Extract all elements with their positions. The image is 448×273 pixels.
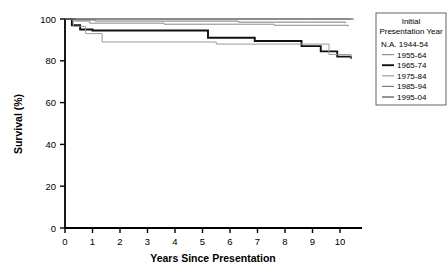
x-tick-label: 5: [200, 236, 205, 247]
legend-entry-label: 1995-04: [397, 93, 427, 102]
legend-entry-label: 1975-84: [397, 72, 427, 81]
x-tick-label: 3: [145, 236, 150, 247]
x-tick-label: 0: [62, 236, 67, 247]
legend-title-line1: Initial: [402, 17, 421, 26]
legend-entry-label: N.A. 1944-54: [381, 40, 429, 49]
x-tick-label: 9: [310, 236, 315, 247]
legend: Initial Presentation Year N.A. 1944-5419…: [376, 13, 446, 105]
x-tick-label: 8: [282, 236, 287, 247]
chart-canvas: 020406080100 012345678910 Years Since Pr…: [0, 0, 448, 273]
y-tick-label: 60: [45, 97, 56, 108]
x-tick-label: 4: [172, 236, 177, 247]
x-tick-label: 7: [255, 236, 260, 247]
y-tick-label: 0: [51, 223, 56, 234]
legend-entry-label: 1955-64: [397, 51, 427, 60]
x-tick-label: 1: [90, 236, 95, 247]
y-tick-label: 80: [45, 55, 56, 66]
x-tick-label: 6: [227, 236, 232, 247]
y-tick-label: 100: [40, 14, 56, 25]
legend-entry-label: 1965-74: [397, 61, 427, 70]
y-tick-label: 40: [45, 139, 56, 150]
x-axis-title: Years Since Presentation: [150, 252, 275, 264]
x-tick-label: 2: [117, 236, 122, 247]
legend-entry-label: 1985-94: [397, 82, 427, 91]
y-axis-title: Survival (%): [12, 94, 24, 154]
y-tick-label: 20: [45, 181, 56, 192]
x-tick-label: 10: [335, 236, 346, 247]
legend-title-line2: Presentation Year: [379, 27, 442, 36]
survival-chart-figure: 020406080100 012345678910 Years Since Pr…: [0, 0, 448, 273]
